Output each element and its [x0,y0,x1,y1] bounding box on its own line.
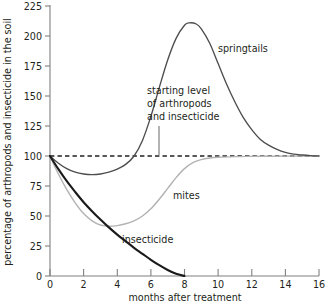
x-axis-tick-labels: 0 2 4 6 8 10 12 14 16 [47,279,325,290]
y-tick-label: 175 [24,61,42,72]
x-axis-title: months after treatment [128,292,241,303]
annotation-line-1: starting level [147,85,210,96]
x-tick-label: 2 [81,279,87,290]
x-tick-label: 10 [212,279,224,290]
y-tick-label: 50 [30,211,42,222]
y-tick-label: 100 [24,151,42,162]
y-axis-title: percentage of arthropods and insecticide… [2,18,13,266]
series-label-springtails: springtails [218,43,268,54]
x-tick-label: 6 [148,279,154,290]
chart-figure: 225 200 175 150 125 100 75 50 25 0 0 2 [0,0,330,306]
y-tick-label: 225 [24,1,42,12]
x-tick-label: 16 [313,279,325,290]
x-tick-label: 4 [114,279,120,290]
y-tick-label: 75 [30,181,42,192]
x-tick-label: 12 [246,279,258,290]
series-line-insecticide [50,156,185,276]
starting-level-annotation: starting level of arthropods and insecti… [147,85,219,155]
annotation-line-2: of arthropods [147,98,212,109]
y-tick-label: 150 [24,91,42,102]
x-tick-label: 0 [47,279,53,290]
y-tick-label: 25 [30,241,42,252]
x-tick-label: 8 [181,279,187,290]
annotation-line-3: and insecticide [147,111,219,122]
series-label-insecticide: insecticide [122,234,173,245]
y-tick-label: 0 [36,271,42,282]
y-axis-ticks [45,6,50,276]
chart-svg: 225 200 175 150 125 100 75 50 25 0 0 2 [0,0,330,306]
y-axis-tick-labels: 225 200 175 150 125 100 75 50 25 0 [24,1,42,282]
y-tick-label: 200 [24,31,42,42]
series-label-mites: mites [173,190,200,201]
y-tick-label: 125 [24,121,42,132]
x-tick-label: 14 [279,279,291,290]
